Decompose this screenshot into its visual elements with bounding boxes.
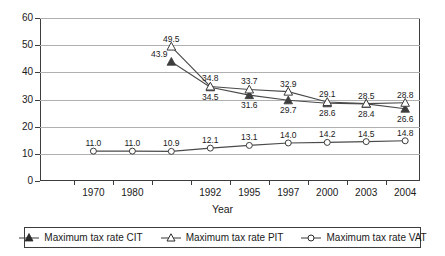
x-tick-mark	[347, 181, 348, 185]
x-tick-label-2003: 2003	[355, 187, 377, 198]
data-label: 34.8	[202, 74, 219, 83]
y-tick-mark-60	[35, 18, 40, 19]
data-label: 28.6	[319, 109, 336, 118]
x-tick-label-1992: 1992	[199, 187, 221, 198]
gridline-60	[40, 18, 420, 19]
legend-label-vat: Maximum tax rate VAT	[326, 232, 426, 243]
gridline-40	[40, 72, 420, 73]
data-label: 11.0	[124, 139, 140, 148]
y-tick-mark-30	[35, 100, 40, 101]
x-tick-label-2004: 2004	[394, 187, 416, 198]
x-tick-mark	[308, 181, 309, 185]
x-tick-label-1995: 1995	[238, 187, 260, 198]
gridline-50	[40, 45, 420, 46]
x-tick-label-1980: 1980	[121, 187, 143, 198]
y-tick-label-60: 60	[2, 13, 33, 23]
data-label: 32.9	[280, 80, 297, 89]
data-label: 34.5	[202, 93, 219, 102]
y-tick-label-20: 20	[2, 122, 33, 132]
legend-entry-pit[interactable]: Maximum tax rate PIT	[160, 232, 284, 244]
data-label: 33.7	[241, 77, 258, 86]
data-label: 14.8	[397, 129, 414, 138]
data-label: 49.5	[163, 35, 180, 44]
open-triangle-marker-icon	[160, 232, 182, 244]
y-tick-label-50: 50	[2, 40, 33, 50]
x-tick-mark	[74, 181, 75, 185]
data-label: 29.7	[280, 106, 297, 115]
x-tick-label-1997: 1997	[277, 187, 299, 198]
chart-legend: Maximum tax rate CIT Maximum tax rate PI…	[24, 227, 421, 248]
x-tick-mark	[113, 181, 114, 185]
data-label: 28.5	[358, 92, 375, 101]
data-label: 13.1	[241, 133, 258, 142]
data-label: 12.1	[202, 136, 219, 145]
x-tick-mark	[386, 181, 387, 185]
data-label: 11.0	[85, 139, 101, 148]
data-label: 29.1	[319, 90, 336, 99]
data-label: 28.4	[358, 110, 375, 119]
filled-triangle-marker-icon	[18, 232, 40, 244]
x-tick-label-2000: 2000	[316, 187, 338, 198]
data-label: 31.6	[241, 101, 258, 110]
y-tick-mark-40	[35, 72, 40, 73]
gridline-20	[40, 127, 420, 128]
legend-entry-cit[interactable]: Maximum tax rate CIT	[18, 232, 142, 244]
y-tick-label-30: 30	[2, 95, 33, 105]
x-tick-label-1970: 1970	[82, 187, 104, 198]
y-tick-mark-10	[35, 154, 40, 155]
y-tick-mark-50	[35, 45, 40, 46]
x-tick-mark	[191, 181, 192, 185]
x-axis-title: Year	[0, 203, 445, 215]
tax-rate-line-chart: 0102030405060 19701980199219951997200020…	[0, 0, 445, 256]
y-tick-mark-20	[35, 127, 40, 128]
x-tick-mark	[269, 181, 270, 185]
data-label: 10.9	[163, 139, 180, 148]
y-tick-label-40: 40	[2, 67, 33, 77]
data-label: 26.6	[397, 115, 414, 124]
x-tick-mark	[152, 181, 153, 185]
y-tick-mark-0	[35, 181, 40, 182]
x-tick-mark	[230, 181, 231, 185]
y-tick-label-10: 10	[2, 149, 33, 159]
data-label: 14.0	[280, 131, 297, 140]
data-label: 14.2	[319, 130, 336, 139]
gridline-10	[40, 154, 420, 155]
data-label: 14.5	[358, 130, 375, 139]
data-label: 43.9	[151, 50, 168, 59]
legend-entry-vat[interactable]: Maximum tax rate VAT	[300, 232, 426, 244]
open-circle-marker-icon	[300, 232, 322, 244]
legend-label-cit: Maximum tax rate CIT	[44, 232, 142, 243]
legend-label-pit: Maximum tax rate PIT	[186, 232, 284, 243]
data-label: 28.8	[397, 91, 414, 100]
y-tick-label-0: 0	[2, 176, 33, 186]
